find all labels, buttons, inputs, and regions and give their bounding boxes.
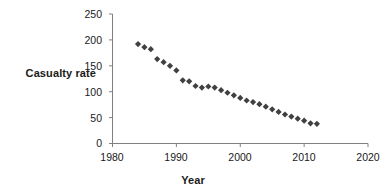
data-point xyxy=(212,84,218,90)
data-point xyxy=(282,111,288,117)
data-point xyxy=(275,109,281,115)
data-point xyxy=(301,118,307,124)
data-point xyxy=(263,104,269,110)
data-point xyxy=(250,99,256,105)
data-point xyxy=(167,63,173,69)
data-point xyxy=(205,83,211,89)
tick-marks xyxy=(109,14,368,147)
data-point xyxy=(180,77,186,83)
chart-container: Casualty rate Year 250 200 150 100 50 0 … xyxy=(0,0,386,195)
data-point xyxy=(186,78,192,84)
data-point xyxy=(173,67,179,73)
data-point xyxy=(218,87,224,93)
data-point xyxy=(231,92,237,98)
data-point xyxy=(244,97,250,103)
data-point xyxy=(307,120,313,126)
data-point xyxy=(314,121,320,127)
data-point xyxy=(295,116,301,122)
data-point xyxy=(269,106,275,112)
data-point xyxy=(256,101,262,107)
data-point-group xyxy=(135,41,320,127)
data-point xyxy=(237,95,243,101)
data-point xyxy=(288,113,294,119)
data-point xyxy=(148,46,154,52)
data-point xyxy=(224,90,230,96)
data-point xyxy=(154,56,160,62)
data-point xyxy=(192,83,198,89)
plot-area xyxy=(0,0,386,195)
data-point xyxy=(199,84,205,90)
data-point xyxy=(135,41,141,47)
data-point xyxy=(161,59,167,65)
data-point xyxy=(141,44,147,50)
